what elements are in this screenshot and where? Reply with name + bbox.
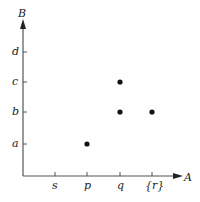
y-tick-label-a: a bbox=[12, 137, 19, 150]
y-tick-label-d: d bbox=[12, 45, 19, 58]
y-tick-label-c: c bbox=[12, 75, 18, 88]
y-axis-title: B bbox=[17, 7, 26, 20]
point-r-b bbox=[149, 109, 154, 114]
x-ticks: s p q {r} bbox=[52, 172, 164, 192]
point-q-c bbox=[117, 79, 122, 84]
x-axis-title: A bbox=[183, 171, 192, 184]
x-tick-label-r: {r} bbox=[145, 179, 164, 192]
data-points bbox=[84, 79, 154, 146]
x-axis-arrow-icon bbox=[173, 173, 183, 179]
y-ticks: d c b a bbox=[12, 45, 27, 150]
y-tick-label-b: b bbox=[12, 105, 19, 118]
diagram: B A d c b a s p q {r} bbox=[0, 0, 200, 202]
point-p-a bbox=[84, 141, 89, 146]
x-tick-label-s: s bbox=[52, 179, 58, 192]
point-q-b bbox=[117, 109, 122, 114]
x-tick-label-q: q bbox=[117, 179, 124, 192]
x-tick-label-p: p bbox=[84, 179, 91, 192]
y-axis-arrow-icon bbox=[20, 19, 26, 29]
